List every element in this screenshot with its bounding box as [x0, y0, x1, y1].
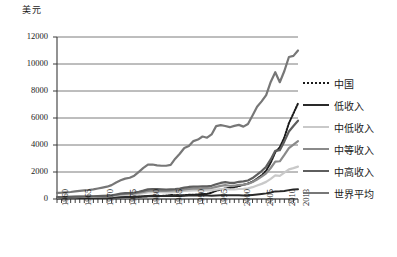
legend-swatch-icon: [303, 148, 329, 150]
data-series-group: [57, 51, 298, 199]
legend-item-0[interactable]: 中国: [303, 72, 374, 94]
legend-label: 世界平均: [334, 186, 374, 201]
legend-item-5[interactable]: 世界平均: [303, 182, 374, 204]
y-tick-label: 4000: [2, 140, 48, 149]
x-tick-label: 1980: [152, 189, 161, 206]
x-tick-label: 1975: [129, 189, 138, 206]
legend-label: 低收入: [334, 98, 364, 113]
y-axis-ticks: [53, 37, 57, 199]
x-tick-label: 1960: [61, 189, 70, 206]
legend-swatch-icon: [303, 192, 329, 194]
y-tick-label: 8000: [2, 86, 48, 95]
y-tick-label: 6000: [2, 113, 48, 122]
legend-label: 中低收入: [334, 120, 374, 135]
legend-swatch-icon: [303, 104, 329, 106]
legend-label: 中国: [334, 76, 354, 91]
x-tick-label: 1990: [197, 189, 206, 206]
legend-swatch-icon: [303, 82, 329, 84]
chart-container: 美元 120001000080006000400020000 196019651…: [0, 0, 397, 257]
legend-item-4[interactable]: 中高收入: [303, 160, 374, 182]
legend-swatch-icon: [303, 170, 329, 172]
x-tick-label: 1995: [220, 189, 229, 206]
legend-item-3[interactable]: 中等收入: [303, 138, 374, 160]
legend-label: 中等收入: [334, 142, 374, 157]
y-tick-label: 0: [2, 194, 48, 203]
series-line-4: [57, 121, 298, 197]
x-tick-label: 1970: [106, 189, 115, 206]
legend-item-1[interactable]: 低收入: [303, 94, 374, 116]
x-tick-label: 2010: [288, 189, 297, 206]
y-tick-label: 2000: [2, 167, 48, 176]
y-tick-label: 12000: [2, 32, 48, 41]
legend-label: 中高收入: [334, 164, 374, 179]
y-tick-label: 10000: [2, 59, 48, 68]
x-tick-label: 1965: [84, 189, 93, 206]
x-tick-label: 2000: [243, 189, 252, 206]
x-tick-label: 1985: [175, 189, 184, 206]
legend-swatch-icon: [303, 126, 329, 128]
x-tick-label: 2005: [266, 189, 275, 206]
legend-item-2[interactable]: 中低收入: [303, 116, 374, 138]
chart-legend: 中国低收入中低收入中等收入中高收入世界平均: [303, 72, 374, 204]
